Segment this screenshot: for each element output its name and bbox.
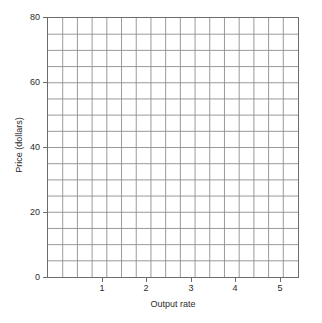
x-tick-label-3: 3 (181, 283, 201, 293)
y-axis-title: Price (dollars) (14, 85, 24, 205)
x-axis-title: Output rate (47, 299, 299, 309)
y-tickmark-60 (43, 82, 47, 83)
x-tickmark-2 (146, 278, 147, 282)
x-tick-label-5: 5 (270, 283, 290, 293)
grid-horizontal-lines (48, 34, 298, 261)
x-tick-label-1: 1 (92, 283, 112, 293)
x-tickmark-3 (191, 278, 192, 282)
chart-figure: 80 60 40 20 0 1 2 3 4 5 Price (dollars) … (0, 0, 322, 323)
y-tick-label-0: 0 (14, 272, 40, 282)
y-tickmark-40 (43, 147, 47, 148)
y-tickmark-80 (43, 17, 47, 18)
x-tickmark-4 (235, 278, 236, 282)
x-tick-label-2: 2 (136, 283, 156, 293)
grid-lines (48, 18, 298, 277)
y-tickmark-0 (43, 277, 47, 278)
x-tick-label-4: 4 (225, 283, 245, 293)
x-tickmark-1 (102, 278, 103, 282)
x-tickmark-5 (280, 278, 281, 282)
y-tick-label-80: 80 (14, 12, 40, 22)
y-tick-label-20: 20 (14, 207, 40, 217)
y-tickmark-20 (43, 212, 47, 213)
plot-area (47, 17, 299, 278)
